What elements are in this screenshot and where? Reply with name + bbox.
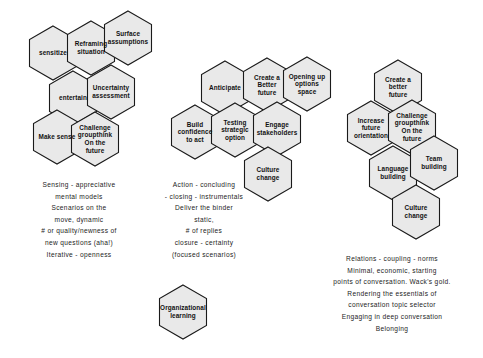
caption-line: Belonging <box>307 323 477 335</box>
hexagon-increase-future-orientation[interactable] <box>348 101 395 155</box>
caption-line: (focused scenarios) <box>140 249 268 261</box>
caption-line: new questions (aha!) <box>14 237 144 249</box>
caption-relations: Relations - coupling - normsMinimal, eco… <box>307 253 477 334</box>
caption-line: # or quality/newness of <box>14 225 144 237</box>
caption-line: Relations - coupling - norms <box>307 253 477 265</box>
hexagon-engage-stakeholders[interactable] <box>254 102 301 156</box>
caption-line: closure - certainty <box>140 237 268 249</box>
caption-line: Engaging in deep conversation <box>307 311 477 323</box>
caption-line: static, <box>140 214 268 226</box>
caption-line: points of conversation. Wack's gold. <box>307 276 477 288</box>
caption-line: Minimal, economic, starting <box>307 265 477 277</box>
hexagon-opening-up-options-space[interactable] <box>284 57 331 111</box>
caption-action: Action - concluding- closing - instrumen… <box>140 179 268 260</box>
caption-line: Rendering the essentials of <box>307 288 477 300</box>
caption-line: Scenarios on the <box>14 202 144 214</box>
hexagon-organizational-learning[interactable] <box>160 285 207 339</box>
caption-line: Iterative - openness <box>14 249 144 261</box>
caption-sensing: Sensing - appreciativemental modelsScena… <box>14 179 144 260</box>
caption-line: Deliver the binder <box>140 202 268 214</box>
caption-line: # of replies <box>140 225 268 237</box>
caption-line: mental models <box>14 191 144 203</box>
caption-line: conversation topic selector <box>307 299 477 311</box>
caption-line: move, dynamic <box>14 214 144 226</box>
caption-line: Sensing - appreciative <box>14 179 144 191</box>
caption-line: Action - concluding <box>140 179 268 191</box>
caption-line: - closing - instrumentals <box>140 191 268 203</box>
